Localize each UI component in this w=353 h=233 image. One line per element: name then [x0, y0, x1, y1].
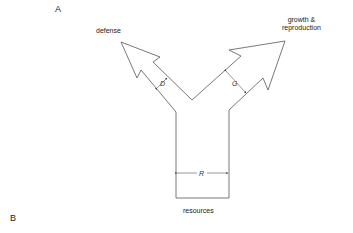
d-dimension-label: D — [160, 80, 165, 87]
r-dimension-label: R — [199, 170, 204, 177]
allocation-diagram: D G R — [0, 0, 353, 233]
g-dimension-label: G — [232, 80, 238, 87]
